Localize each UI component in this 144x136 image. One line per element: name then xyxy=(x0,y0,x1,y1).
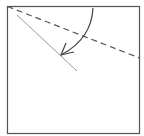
paper-square xyxy=(8,7,140,134)
origami-diagram xyxy=(0,0,144,136)
